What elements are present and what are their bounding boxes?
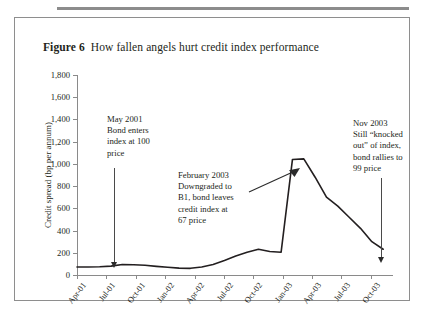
x-tick <box>224 275 225 279</box>
y-tick-label: 200 <box>57 248 70 258</box>
y-tick-label: 1,600 <box>51 92 70 102</box>
annotation-downgrade-arrow <box>248 166 304 194</box>
annotation-rally-arrow-head <box>378 257 384 263</box>
y-tick-label: 400 <box>57 226 70 236</box>
x-tick-label: Apr-03 <box>301 281 323 305</box>
x-tick <box>136 275 137 279</box>
annotation-bond-entry-arrow-line <box>114 168 115 264</box>
x-tick-label: Apr-01 <box>66 281 88 305</box>
x-tick-label: Jan-02 <box>155 281 176 304</box>
annotation-rally-arrow-line <box>381 178 382 259</box>
y-tick-label: 1,800 <box>51 70 70 80</box>
figure-title: Figure 6 How fallen angels hurt credit i… <box>43 41 319 53</box>
x-tick-label: Jul-01 <box>97 281 117 303</box>
x-tick-label: Jul-03 <box>333 281 353 303</box>
annotation-bond-entry-arrow-head <box>111 262 117 268</box>
x-tick <box>371 275 372 279</box>
x-tick <box>312 275 313 279</box>
y-axis-title: Credit spread (bp per annum) <box>41 75 55 275</box>
y-tick-label: 1,400 <box>51 114 70 124</box>
x-tick <box>341 275 342 279</box>
x-tick-label: Apr-02 <box>184 281 206 305</box>
y-tick-label: 1,000 <box>51 159 70 169</box>
x-tick <box>106 275 107 279</box>
y-tick-label: 600 <box>57 203 70 213</box>
figure-title-text: How fallen angels hurt credit index perf… <box>91 41 319 53</box>
x-axis-line <box>77 275 393 276</box>
figure-panel: Figure 6 How fallen angels hurt credit i… <box>0 0 426 322</box>
y-tick-label: 1,200 <box>51 137 70 147</box>
figure-label: Figure 6 <box>43 41 85 53</box>
x-tick-label: Jan-03 <box>273 281 294 304</box>
x-tick-label: Oct-01 <box>125 281 146 305</box>
y-tick-label: 0 <box>66 270 70 280</box>
figure-box: Figure 6 How fallen angels hurt credit i… <box>14 17 410 301</box>
x-tick <box>195 275 196 279</box>
x-tick <box>77 275 78 279</box>
x-tick <box>253 275 254 279</box>
annotation-downgrade: February 2003 Downgraded to B1, bond lea… <box>178 170 234 226</box>
x-tick-label: Oct-02 <box>243 281 264 305</box>
annotation-rally: Nov 2003 Still “knocked out” of index, b… <box>353 118 403 174</box>
x-tick <box>283 275 284 279</box>
top-rule <box>57 7 409 10</box>
x-tick-label: Oct-03 <box>361 281 382 305</box>
x-tick <box>165 275 166 279</box>
annotation-bond-entry: May 2001 Bond enters index at 100 price <box>107 114 150 159</box>
y-tick-label: 800 <box>57 181 70 191</box>
x-tick-label: Jul-02 <box>215 281 235 303</box>
